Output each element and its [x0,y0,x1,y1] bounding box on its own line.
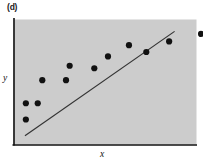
data-point [198,31,203,37]
x-axis-label: x [100,149,104,159]
scatter-plot-svg [0,0,203,164]
data-point [35,100,41,106]
data-point [63,77,69,83]
figure-panel-d: (d) y x [0,0,203,164]
data-point [67,63,73,69]
y-axis-label: y [3,73,7,83]
data-point [39,77,45,83]
data-point [126,42,132,48]
data-point [105,53,111,59]
data-point [143,49,149,55]
data-point [91,65,97,71]
data-point [23,116,29,122]
data-point [166,38,172,44]
plot-area [0,0,203,164]
data-point [23,100,29,106]
